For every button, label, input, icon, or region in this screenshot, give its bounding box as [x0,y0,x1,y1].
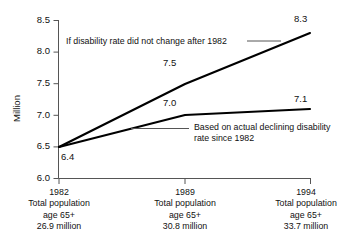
data-label-1994-7-1: 7.1 [294,94,307,105]
y-tick-label-7-5: 7.5 [24,78,50,89]
x-category-line2-1989: age 65+ [135,210,235,221]
y-tick-marks [54,21,59,179]
x-category-block-1982: 1982 Total population age 65+ 26.9 milli… [9,187,109,233]
data-label-1994-8-3: 8.3 [294,14,307,25]
data-label-1982-6-4: 6.4 [61,152,74,163]
x-category-year-1994: 1994 [256,187,356,198]
y-tick-label-8-0: 8.0 [24,46,50,57]
y-axis-title: Million [12,95,23,122]
y-tick-label-6-0: 6.0 [24,173,50,184]
data-label-1989-7-0: 7.0 [163,98,176,109]
y-tick-label-8-5: 8.5 [24,15,50,26]
x-category-year-1982: 1982 [9,187,109,198]
lower-annotation-line-1: Based on actual declining disability [194,122,330,133]
x-category-line1-1994: Total population [256,198,356,209]
x-category-line3-1989: 30.8 million [135,221,235,232]
x-category-block-1989: 1989 Total population age 65+ 30.8 milli… [135,187,235,233]
x-category-line2-1994: age 65+ [256,210,356,221]
lower-annotation-text: Based on actual declining disability rat… [194,122,330,144]
data-label-1989-7-5: 7.5 [163,58,176,69]
lower-annotation-line-2: rate since 1982 [194,133,330,144]
x-category-line1-1989: Total population [135,198,235,209]
chart-container: Million 8.5 8.0 7.5 7.0 6.5 6.0 6.4 7.5 … [0,0,356,239]
y-tick-label-6-5: 6.5 [24,141,50,152]
y-tick-label-7-0: 7.0 [24,110,50,121]
x-category-line2-1982: age 65+ [9,210,109,221]
x-category-line3-1982: 26.9 million [9,221,109,232]
x-category-line3-1994: 33.7 million [256,221,356,232]
x-category-line1-1982: Total population [9,198,109,209]
x-category-block-1994: 1994 Total population age 65+ 33.7 milli… [256,187,356,233]
x-tick-marks [59,179,311,185]
upper-annotation-text: If disability rate did not change after … [66,36,227,47]
x-category-year-1989: 1989 [135,187,235,198]
